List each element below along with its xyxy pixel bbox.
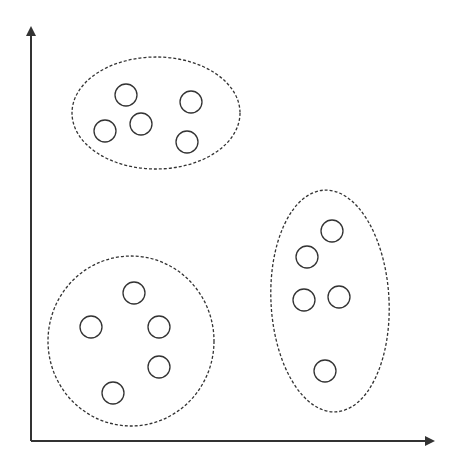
- data-point: [148, 356, 170, 378]
- data-point: [115, 84, 137, 106]
- cluster-top: [72, 57, 240, 169]
- data-point: [328, 286, 350, 308]
- data-point: [176, 131, 198, 153]
- data-point: [148, 316, 170, 338]
- data-point: [296, 246, 318, 268]
- cluster-diagram: [0, 0, 454, 469]
- cluster-bottom-left: [48, 256, 214, 426]
- cluster-right: [265, 187, 394, 415]
- data-point: [102, 382, 124, 404]
- cluster-boundary: [48, 256, 214, 426]
- cluster-boundary: [72, 57, 240, 169]
- data-point: [293, 289, 315, 311]
- clusters: [48, 57, 395, 426]
- data-point: [123, 282, 145, 304]
- axes: [31, 28, 433, 441]
- data-point: [94, 120, 116, 142]
- data-point: [180, 91, 202, 113]
- data-point: [314, 360, 336, 382]
- data-point: [130, 113, 152, 135]
- data-point: [321, 220, 343, 242]
- data-point: [80, 316, 102, 338]
